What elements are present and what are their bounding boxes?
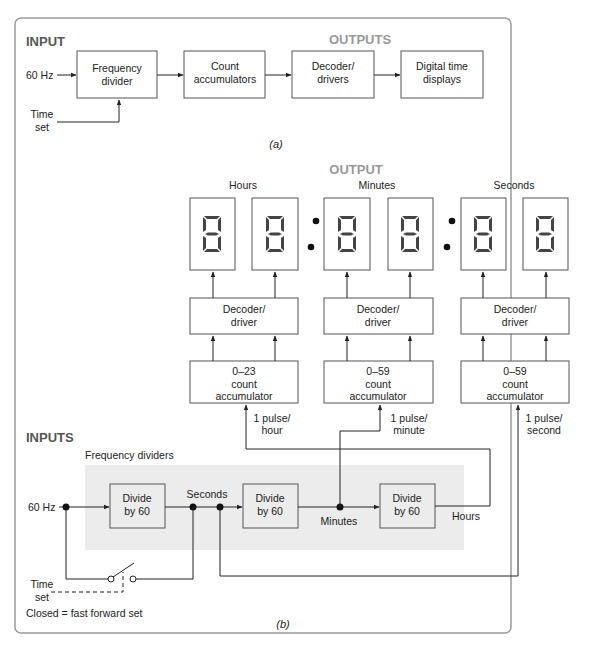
svg-text:Count: Count bbox=[211, 60, 239, 72]
svg-text:count: count bbox=[231, 378, 257, 390]
svg-text:Divide: Divide bbox=[122, 492, 151, 504]
svg-text:displays: displays bbox=[423, 73, 461, 85]
svg-text:by 60: by 60 bbox=[257, 505, 283, 517]
svg-text:driver: driver bbox=[231, 316, 258, 328]
hours-node-label: Hours bbox=[452, 510, 480, 522]
inputs-header: INPUTS bbox=[26, 430, 74, 445]
svg-text:by 60: by 60 bbox=[394, 505, 420, 517]
minutes-node-label: Minutes bbox=[321, 515, 358, 527]
svg-text:count: count bbox=[365, 378, 391, 390]
output-header: OUTPUT bbox=[329, 162, 383, 177]
seconds-label: Seconds bbox=[494, 179, 535, 191]
svg-text:accumulator: accumulator bbox=[486, 390, 544, 402]
input-60hz-label-b: 60 Hz bbox=[28, 501, 55, 513]
count-accumulator-blocks: 0–23 count accumulator 0–59 count accumu… bbox=[190, 361, 569, 403]
seconds-node-label: Seconds bbox=[187, 488, 228, 500]
svg-text:Divide: Divide bbox=[255, 492, 284, 504]
divide-by-60-blocks: Divide by 60 Divide by 60 Divide by 60 bbox=[110, 484, 435, 528]
svg-text:Decoder/: Decoder/ bbox=[494, 303, 537, 315]
svg-text:driver: driver bbox=[502, 316, 529, 328]
svg-text:set: set bbox=[35, 591, 49, 603]
minutes-label: Minutes bbox=[359, 179, 396, 191]
svg-text:Decoder/: Decoder/ bbox=[223, 303, 266, 315]
svg-text:count: count bbox=[502, 378, 528, 390]
decoder-driver-blocks: Decoder/ driver Decoder/ driver Decoder/… bbox=[190, 298, 569, 334]
svg-text:accumulator: accumulator bbox=[215, 390, 273, 402]
time-set-label-a: Time bbox=[31, 108, 54, 120]
caption-b: (b) bbox=[276, 618, 290, 630]
input-header: INPUT bbox=[26, 34, 65, 49]
svg-text:Decoder/: Decoder/ bbox=[357, 303, 400, 315]
outputs-header: OUTPUTS bbox=[329, 32, 391, 47]
svg-text:second: second bbox=[527, 424, 561, 436]
pulse-hour-label: 1 pulse/ bbox=[254, 412, 291, 424]
svg-text:accumulator: accumulator bbox=[349, 390, 407, 402]
svg-text:set: set bbox=[35, 121, 49, 133]
svg-text:by 60: by 60 bbox=[124, 505, 150, 517]
part-b: OUTPUT Hours Minutes Seconds Decoder/ dr… bbox=[26, 162, 569, 630]
svg-text:Divide: Divide bbox=[392, 492, 421, 504]
svg-text:driver: driver bbox=[365, 316, 392, 328]
svg-text:minute: minute bbox=[393, 424, 425, 436]
time-set-label-b: Time bbox=[31, 578, 54, 590]
svg-text:Decoder/: Decoder/ bbox=[312, 60, 355, 72]
svg-text:0–59: 0–59 bbox=[366, 365, 390, 377]
pulse-second-label: 1 pulse/ bbox=[526, 412, 563, 424]
svg-text:hour: hour bbox=[261, 424, 283, 436]
caption-a: (a) bbox=[269, 138, 283, 150]
part-a: INPUT OUTPUTS 60 Hz Frequency divider Co… bbox=[26, 32, 483, 150]
svg-text:drivers: drivers bbox=[317, 73, 349, 85]
switch-note: Closed = fast forward set bbox=[26, 607, 143, 619]
frequency-dividers-label: Frequency dividers bbox=[85, 449, 174, 461]
input-60hz-label: 60 Hz bbox=[26, 69, 53, 81]
svg-text:0–23: 0–23 bbox=[232, 365, 256, 377]
svg-text:Digital time: Digital time bbox=[416, 60, 468, 72]
svg-text:accumulators: accumulators bbox=[194, 73, 256, 85]
svg-text:0–59: 0–59 bbox=[503, 365, 527, 377]
svg-text:Frequency: Frequency bbox=[92, 62, 142, 74]
pulse-minute-label: 1 pulse/ bbox=[391, 412, 428, 424]
digital-clock-block-diagram: INPUT OUTPUTS 60 Hz Frequency divider Co… bbox=[0, 0, 592, 661]
hours-label: Hours bbox=[229, 179, 257, 191]
svg-text:divider: divider bbox=[102, 75, 133, 87]
